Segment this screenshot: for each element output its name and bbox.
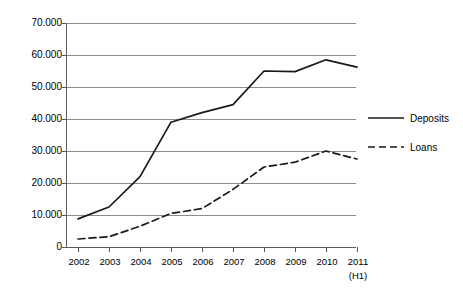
series-line-deposits xyxy=(78,60,357,219)
ytick-label-60000: 60.000 xyxy=(4,50,62,60)
legend-label-deposits: Deposits xyxy=(410,113,449,124)
legend-label-loans: Loans xyxy=(410,142,437,153)
line-chart: 70.000 60.000 50.000 40.000 30.000 20.00… xyxy=(0,0,463,293)
ytick-label-40000: 40.000 xyxy=(4,114,62,124)
ytick-label-50000: 50.000 xyxy=(4,82,62,92)
xtick-label-2011: 2011 xyxy=(336,257,380,267)
ytick-label-30000: 30.000 xyxy=(4,146,62,156)
xtick-sublabel-h1: (H1) xyxy=(336,271,380,281)
ytick-label-70000: 70.000 xyxy=(4,18,62,28)
ytick-label-10000: 10.000 xyxy=(4,210,62,220)
ytick-label-0: 0 xyxy=(4,242,62,252)
chart-canvas xyxy=(0,0,463,293)
ytick-label-20000: 20.000 xyxy=(4,178,62,188)
series-line-loans xyxy=(78,151,357,239)
